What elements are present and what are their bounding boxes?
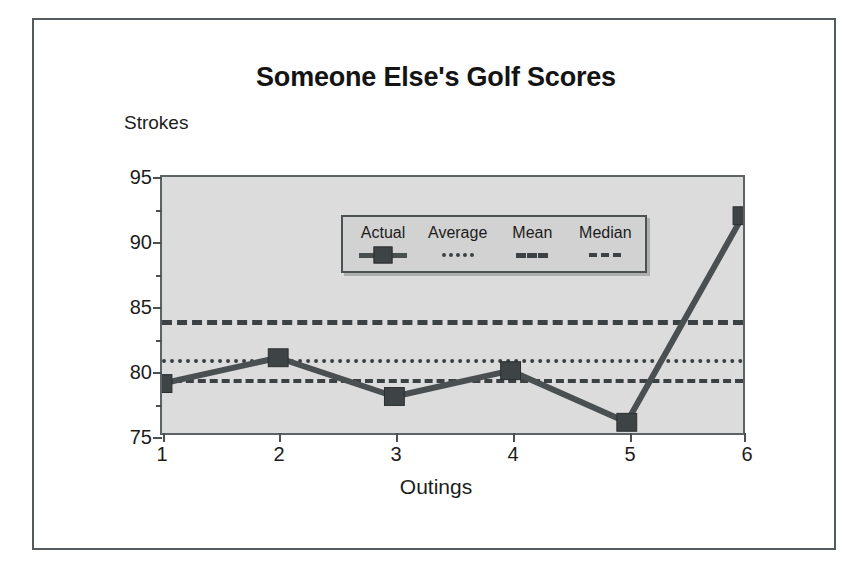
x-axis-tick-label: 3 bbox=[390, 443, 401, 466]
x-axis-title: Outings bbox=[34, 475, 838, 499]
x-axis-tick bbox=[630, 433, 632, 442]
legend-item-median: Median bbox=[577, 224, 633, 262]
x-axis-tick-label: 6 bbox=[741, 443, 752, 466]
y-axis-tick-label: 95 bbox=[130, 166, 152, 189]
y-axis-major-tick bbox=[153, 372, 162, 374]
y-axis-minor-tick bbox=[156, 405, 162, 407]
x-axis-tick-label: 4 bbox=[507, 443, 518, 466]
chart-page: Someone Else's Golf Scores Strokes 75808… bbox=[0, 0, 859, 576]
x-axis-tick bbox=[744, 433, 746, 442]
data-point-marker bbox=[733, 207, 743, 225]
x-axis-tick bbox=[513, 433, 515, 442]
legend-item-actual: Actual bbox=[355, 224, 411, 262]
data-point-marker bbox=[384, 388, 404, 406]
dotted-line-icon bbox=[430, 247, 486, 262]
x-axis-tick bbox=[279, 433, 281, 442]
chart-frame: Someone Else's Golf Scores Strokes 75808… bbox=[32, 18, 836, 550]
x-axis-tick-label: 1 bbox=[156, 443, 167, 466]
y-axis-tick-label: 75 bbox=[130, 426, 152, 449]
legend-line-segment bbox=[589, 253, 621, 257]
x-axis-tick-label: 2 bbox=[273, 443, 284, 466]
legend-item-mean: Mean bbox=[504, 224, 560, 262]
data-point-marker bbox=[162, 375, 172, 393]
y-axis-major-tick bbox=[153, 437, 162, 439]
data-point-marker bbox=[501, 362, 521, 380]
x-axis-tick-label: 5 bbox=[624, 443, 635, 466]
y-axis-tick-label: 85 bbox=[130, 296, 152, 319]
y-axis-minor-tick bbox=[156, 340, 162, 342]
legend-item-label: Median bbox=[579, 224, 631, 242]
plot-area: 7580859095 123456 ActualAverageMeanMedia… bbox=[160, 175, 745, 435]
y-axis-tick-label: 80 bbox=[130, 361, 152, 384]
x-axis-tick bbox=[396, 433, 398, 442]
data-point-marker bbox=[268, 349, 288, 367]
dashed-line-icon bbox=[504, 247, 560, 262]
data-point-marker bbox=[617, 413, 637, 431]
chart-legend: ActualAverageMeanMedian bbox=[341, 215, 647, 273]
y-axis-major-tick bbox=[153, 177, 162, 179]
y-axis-minor-tick bbox=[156, 275, 162, 277]
legend-item-label: Average bbox=[428, 224, 487, 242]
y-axis-tick-label: 90 bbox=[130, 231, 152, 254]
legend-square-marker bbox=[374, 246, 393, 263]
legend-line-segment bbox=[516, 253, 548, 258]
legend-item-average: Average bbox=[428, 224, 487, 262]
y-axis-major-tick bbox=[153, 307, 162, 309]
y-axis-title: Strokes bbox=[124, 112, 188, 134]
y-axis-minor-tick bbox=[156, 210, 162, 212]
legend-item-label: Actual bbox=[361, 224, 405, 242]
square-marker-line-icon bbox=[355, 247, 411, 262]
x-axis-tick bbox=[163, 433, 165, 442]
legend-item-label: Mean bbox=[512, 224, 552, 242]
page-title: Someone Else's Golf Scores bbox=[34, 62, 838, 93]
short-dashed-line-icon bbox=[577, 247, 633, 262]
legend-line-segment bbox=[442, 253, 474, 257]
y-axis-major-tick bbox=[153, 242, 162, 244]
